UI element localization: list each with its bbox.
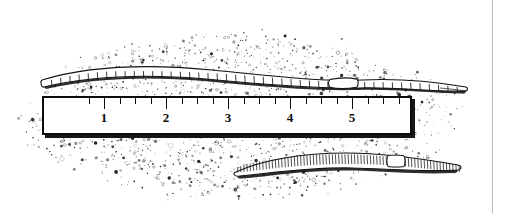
ruler-tick-minor bbox=[399, 98, 400, 104]
ruler-tick-major bbox=[290, 98, 291, 109]
ruler: 12345 bbox=[42, 96, 412, 135]
ruler-tick-major bbox=[104, 98, 105, 109]
ruler-tick-minor bbox=[383, 98, 384, 104]
lower-earthworm bbox=[234, 152, 461, 179]
page-column-rule bbox=[492, 0, 493, 214]
ruler-tick-minor bbox=[337, 98, 338, 104]
ruler-tick-minor bbox=[182, 98, 183, 104]
ruler-tick-major bbox=[352, 98, 353, 109]
lower-worm-clitellum bbox=[387, 155, 405, 167]
ruler-tick-minor bbox=[321, 98, 322, 104]
ruler-tick-minor bbox=[244, 98, 245, 104]
illustration-canvas: 12345 bbox=[0, 0, 492, 214]
ruler-tick-minor bbox=[259, 98, 260, 104]
upper-worm-clitellum bbox=[329, 78, 359, 88]
ruler-tick-major bbox=[166, 98, 167, 109]
ruler-tick-minor bbox=[135, 98, 136, 104]
ruler-tick-minor bbox=[275, 98, 276, 104]
ruler-label-3: 3 bbox=[225, 111, 232, 124]
ruler-label-2: 2 bbox=[163, 111, 170, 124]
figure-stage: 12345 bbox=[0, 0, 515, 214]
ruler-tick-minor bbox=[151, 98, 152, 104]
ruler-label-4: 4 bbox=[287, 111, 294, 124]
ruler-tick-minor bbox=[120, 98, 121, 104]
ruler-tick-minor bbox=[213, 98, 214, 104]
ruler-tick-minor bbox=[89, 98, 90, 104]
ruler-tick-minor bbox=[368, 98, 369, 104]
ruler-label-5: 5 bbox=[349, 111, 356, 124]
ruler-label-1: 1 bbox=[101, 111, 108, 124]
ruler-tick-minor bbox=[306, 98, 307, 104]
ruler-tick-minor bbox=[197, 98, 198, 104]
ruler-tick-major bbox=[228, 98, 229, 109]
